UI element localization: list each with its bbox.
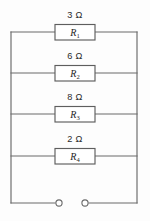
resistor-letter-1: R — [69, 27, 76, 38]
resistor-letter-3: R — [69, 109, 76, 120]
terminal-right-icon — [82, 200, 88, 206]
branch-2-group: 6 Ω R2 — [11, 51, 137, 81]
resistor-letter-4: R — [69, 151, 76, 162]
branch-1-group: 3 Ω R1 — [11, 10, 137, 40]
resistance-value-4: 2 Ω — [67, 134, 83, 144]
resistor-letter-2: R — [69, 68, 76, 79]
resistance-value-2: 6 Ω — [67, 51, 83, 61]
branch-3-group: 8 Ω R3 — [11, 92, 137, 122]
resistance-value-3: 8 Ω — [67, 92, 83, 102]
resistor-subscript-1: 1 — [76, 32, 79, 39]
branch-4-group: 2 Ω R4 — [11, 134, 137, 164]
circuit-schematic-canvas: 3 Ω R1 6 Ω R2 8 Ω R3 2 Ω R4 — [0, 0, 150, 221]
circuit-diagram: 3 Ω R1 6 Ω R2 8 Ω R3 2 Ω R4 — [0, 0, 150, 221]
resistance-value-1: 3 Ω — [67, 10, 83, 20]
resistor-subscript-2: 2 — [76, 73, 79, 80]
terminal-left-icon — [56, 200, 62, 206]
